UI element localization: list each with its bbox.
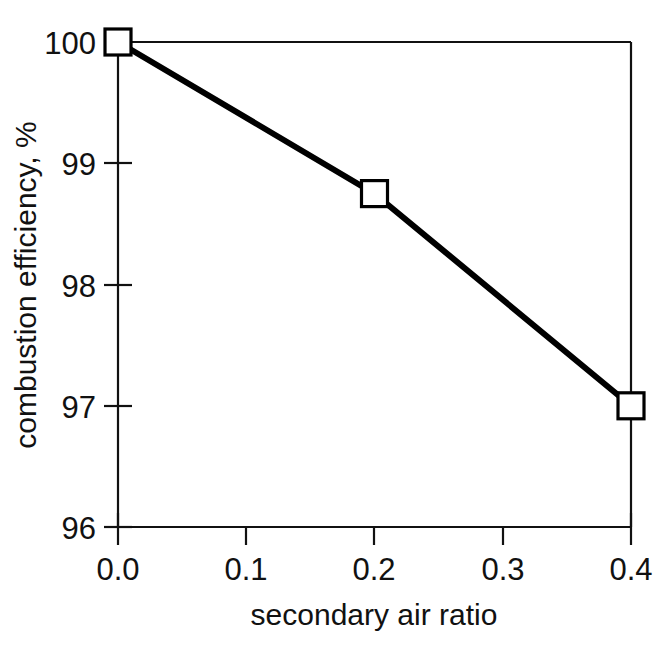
y-tick-label-99: 99 bbox=[62, 147, 96, 182]
chart-figure: 100 99 98 97 96 0.0 0.1 0.2 0.3 0.4 seco… bbox=[0, 0, 667, 652]
y-tick-label-98: 98 bbox=[62, 269, 96, 304]
series-markers bbox=[105, 29, 644, 419]
x-tick-label-0.4: 0.4 bbox=[609, 552, 652, 587]
x-axis-title: secondary air ratio bbox=[251, 598, 498, 631]
y-tick-label-96: 96 bbox=[62, 511, 96, 546]
data-point-marker bbox=[105, 29, 131, 55]
y-tick-label-100: 100 bbox=[44, 26, 96, 61]
data-series-combustion-efficiency bbox=[105, 29, 644, 419]
x-tick-label-0.0: 0.0 bbox=[96, 552, 139, 587]
plot-frame bbox=[118, 42, 631, 527]
y-axis-title: combustion efficiency, % bbox=[9, 121, 42, 448]
chart-svg: 100 99 98 97 96 0.0 0.1 0.2 0.3 0.4 seco… bbox=[0, 0, 667, 652]
x-axis-ticks bbox=[118, 513, 631, 545]
chart-page: 100 99 98 97 96 0.0 0.1 0.2 0.3 0.4 seco… bbox=[0, 0, 667, 652]
y-tick-label-97: 97 bbox=[62, 390, 96, 425]
data-point-marker bbox=[362, 181, 388, 207]
series-line bbox=[118, 42, 631, 406]
x-tick-label-0.1: 0.1 bbox=[224, 552, 267, 587]
data-point-marker bbox=[618, 393, 644, 419]
x-tick-label-0.3: 0.3 bbox=[481, 552, 524, 587]
x-tick-label-0.2: 0.2 bbox=[352, 552, 395, 587]
